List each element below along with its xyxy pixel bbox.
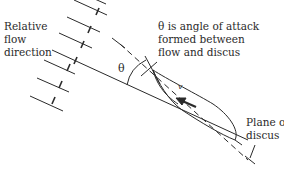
plane-label-line-2: discus [246,129,284,142]
velocity-arrow [176,98,196,107]
plane-of-discus-label: Plane of discus [246,116,284,142]
plane-label-line-1: Plane of [246,116,284,129]
plane-pointer [245,145,255,164]
velocity-symbol: v [178,82,183,91]
flow-label-line-2: flow [4,33,52,46]
flow-label-line-3: direction [4,46,52,59]
trailing-edge-line [235,140,242,145]
flow-direction-label: Relative flow direction [4,20,52,59]
discus-outline [153,70,236,140]
discus-inner-line [153,70,178,104]
angle-desc-line-1: θ is angle of attack [158,20,259,33]
angle-description-label: θ is angle of attack formed between flow… [158,20,259,59]
flow-label-line-1: Relative [4,20,52,33]
flow-ticks [52,8,99,104]
angle-desc-line-2: formed between [158,33,259,46]
angle-arc [127,60,146,85]
discus-angle-of-attack-diagram: Relative flow direction θ is angle of at… [0,0,284,169]
angle-desc-line-3: flow and discus [158,46,259,59]
theta-symbol: θ [118,62,125,75]
